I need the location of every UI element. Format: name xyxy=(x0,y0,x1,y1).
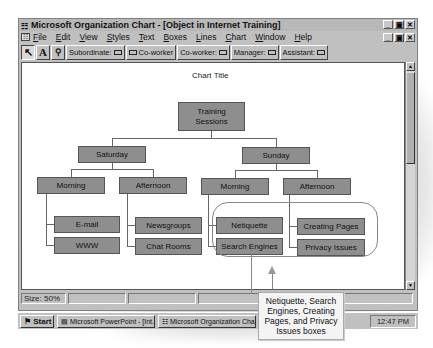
scroll-down-button[interactable]: ▼ xyxy=(406,281,415,290)
node-saturday-afternoon[interactable]: Afternoon xyxy=(119,177,187,194)
minimize-button[interactable]: _ xyxy=(383,20,393,29)
menu-text[interactable]: Text xyxy=(139,31,155,43)
connector xyxy=(46,245,54,246)
assistant-box-icon xyxy=(317,50,325,55)
callout-annotation: Netiquette, Search Engines, Creating Pag… xyxy=(258,292,344,340)
menu-chart[interactable]: Chart xyxy=(225,31,246,43)
connector xyxy=(317,170,318,178)
highlight-outline xyxy=(212,202,378,257)
windows-logo-icon: ⚑ xyxy=(24,317,31,326)
coworker-right-box-icon xyxy=(219,50,227,55)
chart-title[interactable]: Chart Title xyxy=(192,71,228,80)
scroll-up-button[interactable]: ▲ xyxy=(406,62,415,71)
org-chart-app-icon: ☷ xyxy=(21,23,29,31)
document-icon[interactable]: ☷ xyxy=(21,33,30,41)
menu-edit[interactable]: Edit xyxy=(56,31,71,43)
node-sunday-morning[interactable]: Morning xyxy=(201,178,269,195)
callout-arrow-line-lower xyxy=(251,251,252,293)
taskbar-powerpoint[interactable]: ▤ Microsoft PowerPoint - [Int... xyxy=(57,315,155,328)
doc-close-button[interactable]: ✕ xyxy=(405,33,415,42)
window-controls: _ ▣ ✕ xyxy=(383,20,415,29)
taskbar-clock: 12:47 PM xyxy=(370,315,416,328)
coworker-right-button[interactable]: Co-worker: xyxy=(177,45,230,60)
root-line1: Training xyxy=(197,107,226,117)
doc-restore-button[interactable]: ▣ xyxy=(394,33,404,42)
menu-help[interactable]: Help xyxy=(294,31,311,43)
menu-bar: ☷ File Edit View Styles Text Boxes Lines… xyxy=(19,31,417,43)
arrow-icon: ↖ xyxy=(24,46,33,59)
connector xyxy=(208,195,209,246)
node-saturday-morning[interactable]: Morning xyxy=(37,177,105,194)
coworker-left-label: Co-worker xyxy=(139,46,174,59)
menu-window[interactable]: Window xyxy=(255,31,285,43)
status-bar: Size: 50% xyxy=(21,293,417,305)
connector xyxy=(71,169,72,177)
coworker-left-box-icon xyxy=(129,50,137,55)
coworker-right-label: Co-worker: xyxy=(180,46,217,59)
window-title: Microsoft Organization Chart - [Object i… xyxy=(31,20,281,30)
title-bar: ☷Microsoft Organization Chart - [Object … xyxy=(19,19,417,31)
manager-button[interactable]: Manager: xyxy=(231,45,279,60)
status-cell-2 xyxy=(68,293,126,304)
connector xyxy=(127,194,128,246)
doc-minimize-button[interactable]: _ xyxy=(383,33,393,42)
select-tool-button[interactable]: ↖ xyxy=(21,45,35,60)
menu-file[interactable]: File xyxy=(33,31,47,43)
subordinate-button[interactable]: Subordinate: xyxy=(66,45,125,60)
task-label: Microsoft Organization Cha... xyxy=(170,318,256,325)
menu-view[interactable]: View xyxy=(79,31,97,43)
node-training-sessions[interactable]: Training Sessions xyxy=(178,102,245,131)
manager-label: Manager: xyxy=(234,46,266,59)
close-button[interactable]: ✕ xyxy=(405,20,415,29)
connector xyxy=(235,170,317,171)
connector xyxy=(153,169,154,177)
node-newsgroups[interactable]: Newsgroups xyxy=(135,217,202,234)
taskbar: ⚑ Start ▤ Microsoft PowerPoint - [Int...… xyxy=(18,312,418,329)
org-chart-icon: ☷ xyxy=(162,318,168,325)
subordinate-box-icon xyxy=(114,50,122,55)
node-email[interactable]: E-mail xyxy=(54,216,120,233)
text-a-icon: A xyxy=(39,46,47,59)
connector xyxy=(46,194,47,245)
manager-box-icon xyxy=(268,50,276,55)
connector xyxy=(276,138,277,147)
connector xyxy=(211,131,212,138)
start-button[interactable]: ⚑ Start xyxy=(20,315,54,328)
node-sunday-afternoon[interactable]: Afternoon xyxy=(283,178,351,195)
connector xyxy=(127,225,135,226)
root-line2: Sessions xyxy=(195,117,227,127)
status-cell-3 xyxy=(128,293,196,304)
powerpoint-icon: ▤ xyxy=(61,318,68,325)
toolbar: ↖ A ⚲ Subordinate: Co-worker Co-worker: … xyxy=(21,44,331,60)
restore-button[interactable]: ▣ xyxy=(394,20,404,29)
task-label: Microsoft PowerPoint - [Int... xyxy=(70,318,155,325)
subordinate-label: Subordinate: xyxy=(69,46,112,59)
assistant-button[interactable]: Assistant: xyxy=(280,45,329,60)
start-label: Start xyxy=(33,317,51,326)
connector xyxy=(127,246,135,247)
app-window: ☷Microsoft Organization Chart - [Object … xyxy=(18,18,418,311)
assistant-label: Assistant: xyxy=(283,46,316,59)
node-chat-rooms[interactable]: Chat Rooms xyxy=(135,238,202,255)
vertical-scrollbar[interactable]: ▲ ▼ xyxy=(405,62,415,290)
chart-canvas[interactable]: Chart Title Training Sessions Saturday S… xyxy=(21,62,405,290)
text-tool-button[interactable]: A xyxy=(36,45,50,60)
taskbar-org-chart[interactable]: ☷ Microsoft Organization Cha... xyxy=(158,315,256,328)
connector xyxy=(112,138,113,146)
document-window-controls: _ ▣ ✕ xyxy=(383,33,415,42)
node-saturday[interactable]: Saturday xyxy=(78,146,146,163)
menu-boxes[interactable]: Boxes xyxy=(163,31,187,43)
node-sunday[interactable]: Sunday xyxy=(242,147,310,164)
magnifier-icon: ⚲ xyxy=(55,46,62,59)
connector xyxy=(71,169,153,170)
scroll-thumb[interactable] xyxy=(406,72,415,164)
callout-arrow-line xyxy=(272,273,273,290)
zoom-tool-button[interactable]: ⚲ xyxy=(51,45,65,60)
connector xyxy=(46,224,54,225)
coworker-left-button[interactable]: Co-worker xyxy=(126,45,177,60)
connector xyxy=(112,138,276,139)
connector xyxy=(235,170,236,178)
menu-styles[interactable]: Styles xyxy=(107,31,130,43)
menu-lines[interactable]: Lines xyxy=(196,31,216,43)
node-www[interactable]: WWW xyxy=(54,237,120,254)
